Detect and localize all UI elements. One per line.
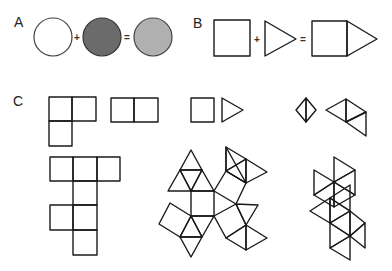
panel-b-label: B xyxy=(193,15,202,31)
combined-square xyxy=(312,21,347,56)
equals-sign: = xyxy=(124,32,130,43)
plus-sign: + xyxy=(74,32,80,43)
octahedron-net xyxy=(310,185,365,260)
gray-circle xyxy=(134,18,172,56)
panel-a: A + = xyxy=(14,14,172,56)
cube-net xyxy=(50,157,120,255)
panel-b: B + = xyxy=(193,15,377,56)
triangle-shape xyxy=(265,21,296,56)
four-triangle-net xyxy=(326,99,366,136)
figure: A + = B + = C xyxy=(0,0,392,271)
dark-circle xyxy=(83,18,121,56)
square-triangle-net xyxy=(159,147,267,257)
panel-c: C xyxy=(13,93,366,260)
panel-a-label: A xyxy=(14,14,24,30)
panel-c-label: C xyxy=(13,93,23,109)
hexagon-triangle-net xyxy=(314,157,355,207)
square-triangle-pair xyxy=(191,98,243,122)
domino-net xyxy=(111,98,158,122)
equals-sign: = xyxy=(300,34,306,45)
l-shape-net xyxy=(49,97,96,146)
square-shape xyxy=(214,20,250,56)
white-circle xyxy=(34,18,72,56)
combined-triangle xyxy=(347,21,377,56)
plus-sign: + xyxy=(254,34,260,45)
two-triangle-net xyxy=(296,98,316,122)
